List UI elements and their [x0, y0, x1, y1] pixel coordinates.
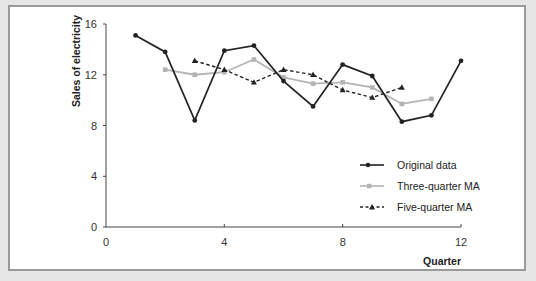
- x-tick-labels: 0 4 8 12: [103, 236, 467, 248]
- data-point-marker: [311, 81, 316, 86]
- y-tick-12: 12: [85, 69, 97, 81]
- x-tick-8: 8: [340, 236, 346, 248]
- series-original-data: [133, 33, 463, 124]
- data-point-marker: [133, 33, 138, 38]
- data-point-marker: [400, 102, 405, 107]
- data-point-marker: [192, 118, 197, 123]
- y-tick-4: 4: [91, 170, 97, 182]
- legend-item-original: Original data: [360, 159, 457, 171]
- svg-text:Original data: Original data: [397, 159, 457, 171]
- chart-canvas: 16 12 8 4 0 0 4 8 12 Quarter Sales of el…: [0, 0, 536, 281]
- svg-text:Three-quarter MA: Three-quarter MA: [397, 180, 480, 192]
- data-point-marker: [163, 50, 168, 55]
- data-point-marker: [252, 43, 257, 48]
- svg-text:Five-quarter MA: Five-quarter MA: [397, 201, 472, 213]
- data-point-marker: [192, 58, 198, 63]
- y-axis-title: Sales of electricity: [70, 15, 82, 107]
- x-tick-0: 0: [103, 236, 109, 248]
- data-point-marker: [340, 62, 345, 67]
- data-point-marker: [370, 74, 375, 79]
- data-point-marker: [311, 104, 316, 109]
- legend: Original data Three-quarter MA Five-quar…: [360, 159, 480, 213]
- data-point-marker: [370, 85, 375, 90]
- data-point-marker: [192, 72, 197, 77]
- data-point-marker: [429, 113, 434, 118]
- data-point-marker: [459, 58, 464, 63]
- data-point-marker: [281, 66, 287, 71]
- y-tick-labels: 16 12 8 4 0: [85, 18, 97, 233]
- x-axis-title: Quarter: [423, 255, 461, 267]
- data-point-marker: [281, 79, 286, 84]
- legend-item-five-quarter: Five-quarter MA: [360, 201, 472, 213]
- y-tick-16: 16: [85, 18, 97, 30]
- data-point-marker: [221, 66, 227, 71]
- data-point-marker: [163, 67, 168, 72]
- data-point-marker: [222, 48, 227, 53]
- y-tick-0: 0: [91, 221, 97, 233]
- x-tick-12: 12: [455, 236, 467, 248]
- data-point-marker: [399, 84, 405, 89]
- x-tick-4: 4: [221, 236, 227, 248]
- data-point-marker: [252, 57, 257, 62]
- plot-area: [133, 33, 463, 124]
- data-point-marker: [340, 80, 345, 85]
- y-tick-8: 8: [91, 120, 97, 132]
- axes: [103, 24, 461, 227]
- data-point-marker: [429, 97, 434, 102]
- legend-item-three-quarter: Three-quarter MA: [360, 180, 480, 192]
- data-point-marker: [399, 119, 404, 124]
